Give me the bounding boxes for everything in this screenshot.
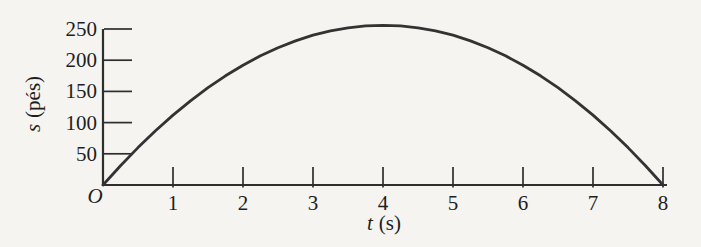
y-axis-unit: (pés) xyxy=(21,76,45,118)
x-tick-label: 3 xyxy=(308,191,319,215)
plot-area: 1234567850100150200250O xyxy=(0,0,701,247)
x-tick-label: 5 xyxy=(448,191,459,215)
position-time-chart: s(pés) 1234567850100150200250O t(s) xyxy=(0,0,701,247)
x-axis-unit: (s) xyxy=(379,211,401,235)
x-tick-label: 8 xyxy=(658,191,669,215)
x-tick-label: 2 xyxy=(238,191,249,215)
x-axis-title: t(s) xyxy=(367,213,401,234)
y-axis-variable: s xyxy=(21,124,45,132)
y-tick-label: 50 xyxy=(76,142,97,166)
position-curve xyxy=(103,25,663,185)
y-tick-label: 250 xyxy=(66,17,98,41)
y-tick-label: 200 xyxy=(66,48,98,72)
origin-label: O xyxy=(87,184,102,208)
y-tick-label: 100 xyxy=(66,111,98,135)
y-axis-title: s(pés) xyxy=(23,76,44,132)
x-axis-variable: t xyxy=(367,211,373,235)
x-tick-label: 6 xyxy=(518,191,529,215)
x-tick-label: 1 xyxy=(168,191,179,215)
y-tick-label: 150 xyxy=(66,79,98,103)
x-tick-label: 7 xyxy=(588,191,599,215)
